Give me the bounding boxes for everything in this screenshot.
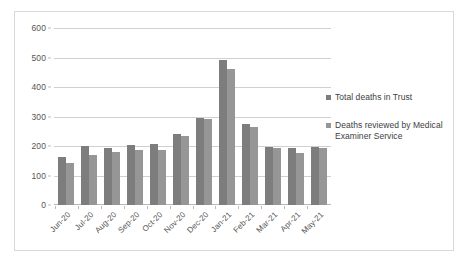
bar-group xyxy=(101,28,124,205)
bar-series-0-mar-21 xyxy=(265,147,273,205)
y-axis-tick-mark xyxy=(48,28,51,29)
legend-item-0[interactable]: Total deaths in Trust xyxy=(326,92,450,104)
bar-series-0-nov-20 xyxy=(173,134,181,205)
plot-area xyxy=(54,28,331,205)
bar-series-1-feb-21 xyxy=(250,127,258,205)
bar-series-0-dec-20 xyxy=(196,118,204,205)
bar-group xyxy=(238,28,261,205)
legend-label: Total deaths in Trust xyxy=(335,92,412,104)
bar-series-1-mar-21 xyxy=(273,148,281,205)
bar-series-0-jun-20 xyxy=(58,157,66,205)
bar-series-0-jan-21 xyxy=(219,60,227,205)
bar-group xyxy=(78,28,101,205)
bar-group xyxy=(193,28,216,205)
x-axis-tick-mark xyxy=(261,206,262,209)
bar-group xyxy=(284,28,307,205)
bar-series-1-jan-21 xyxy=(227,69,235,205)
bar-series-1-nov-20 xyxy=(181,136,189,205)
y-axis-tick-label: 500 xyxy=(32,53,46,63)
chart-container: 0100200300400500600 Jun-20Jul-20Aug-20Se… xyxy=(14,11,454,251)
x-axis-tick-mark xyxy=(124,206,125,209)
y-axis: 0100200300400500600 xyxy=(15,28,51,205)
x-axis-tick-label: Jun-20 xyxy=(49,210,73,234)
bar-group xyxy=(170,28,193,205)
y-axis-tick-mark xyxy=(48,175,51,176)
y-axis-tick-label: 400 xyxy=(32,82,46,92)
bars-layer xyxy=(54,28,331,205)
bar-series-1-oct-20 xyxy=(158,150,166,205)
bar-series-0-aug-20 xyxy=(104,148,112,205)
bar-series-1-dec-20 xyxy=(204,119,212,205)
x-axis-tick-mark xyxy=(238,206,239,209)
x-axis-tick-mark xyxy=(170,206,171,209)
y-axis-tick-mark xyxy=(48,205,51,206)
y-axis-tick-label: 600 xyxy=(32,23,46,33)
bar-series-1-sep-20 xyxy=(135,150,143,205)
bar-series-1-jul-20 xyxy=(89,155,97,205)
x-axis-tick-mark xyxy=(215,206,216,209)
legend-swatch-icon xyxy=(326,123,331,128)
bar-group xyxy=(261,28,284,205)
bar-group xyxy=(124,28,147,205)
bar-group xyxy=(215,28,238,205)
bar-series-0-apr-21 xyxy=(288,148,296,205)
y-axis-tick-mark xyxy=(48,57,51,58)
x-axis-tick-mark xyxy=(78,206,79,209)
x-axis-tick-mark xyxy=(101,206,102,209)
y-axis-tick-label: 200 xyxy=(32,141,46,151)
bar-series-0-oct-20 xyxy=(150,144,158,205)
bar-group xyxy=(147,28,170,205)
bar-group xyxy=(55,28,78,205)
bar-series-0-feb-21 xyxy=(242,124,250,205)
y-axis-tick-mark xyxy=(48,116,51,117)
y-axis-tick-label: 300 xyxy=(32,112,46,122)
chart-legend: Total deaths in TrustDeaths reviewed by … xyxy=(326,92,450,159)
y-axis-tick-mark xyxy=(48,87,51,88)
x-axis-tick-mark xyxy=(147,206,148,209)
bar-series-0-may-21 xyxy=(311,147,319,205)
x-axis-tick-mark xyxy=(307,206,308,209)
y-axis-tick-label: 0 xyxy=(41,200,46,210)
legend-swatch-icon xyxy=(326,95,331,100)
x-axis-tick: May-21 xyxy=(307,207,330,252)
x-axis-tick: Jun-20 xyxy=(55,207,78,252)
legend-item-1[interactable]: Deaths reviewed by Medical Examiner Serv… xyxy=(326,120,450,143)
bar-series-1-jun-20 xyxy=(66,163,74,205)
y-axis-tick-mark xyxy=(48,146,51,147)
x-axis: Jun-20Jul-20Aug-20Sep-20Oct-20Nov-20Dec-… xyxy=(54,207,331,252)
bar-series-1-aug-20 xyxy=(112,152,120,205)
y-axis-tick-label: 100 xyxy=(32,171,46,181)
bar-series-0-jul-20 xyxy=(81,146,89,205)
x-axis-tick-mark xyxy=(55,206,56,209)
legend-label: Deaths reviewed by Medical Examiner Serv… xyxy=(335,120,450,143)
bar-series-0-sep-20 xyxy=(127,145,135,205)
x-axis-tick-mark xyxy=(284,206,285,209)
x-axis-tick-mark xyxy=(193,206,194,209)
bar-series-1-apr-21 xyxy=(296,153,304,206)
